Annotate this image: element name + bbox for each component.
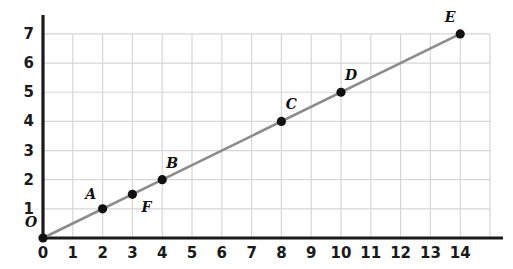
- x-tick-label-13: 13: [420, 246, 441, 261]
- x-tick-label-7: 7: [246, 246, 256, 261]
- data-point-marker-o: [38, 233, 47, 242]
- point-label-a: A: [85, 187, 96, 201]
- x-tick-label-12: 12: [390, 246, 411, 261]
- point-label-d: D: [345, 68, 357, 82]
- x-tick-label-9: 9: [306, 246, 316, 261]
- point-label-e: E: [445, 10, 456, 24]
- y-tick-label-4: 4: [24, 114, 34, 129]
- x-tick-label-6: 6: [217, 246, 227, 261]
- data-point-marker-a: [98, 204, 107, 213]
- grid-lines: [43, 34, 490, 238]
- point-label-c: C: [286, 97, 297, 111]
- x-tick-label-11: 11: [360, 246, 381, 261]
- x-tick-label-2: 2: [97, 246, 107, 261]
- x-tick-label-3: 3: [127, 246, 137, 261]
- point-label-f: F: [141, 200, 151, 214]
- y-tick-label-7: 7: [24, 26, 34, 41]
- x-tick-label-10: 10: [331, 246, 352, 261]
- y-tick-label-3: 3: [24, 143, 34, 158]
- x-tick-label-4: 4: [157, 246, 167, 261]
- plot-area: [0, 0, 513, 269]
- y-tick-label-2: 2: [24, 172, 34, 187]
- data-point-marker-b: [158, 175, 167, 184]
- data-point-marker-f: [128, 190, 137, 199]
- x-tick-label-1: 1: [68, 246, 78, 261]
- x-tick-label-8: 8: [276, 246, 286, 261]
- line-chart: 01234567891011121314 1234567 OAFBCDE: [0, 0, 513, 269]
- y-tick-label-5: 5: [24, 85, 34, 100]
- point-label-o: O: [25, 215, 37, 229]
- x-tick-label-0: 0: [38, 246, 48, 261]
- x-tick-label-14: 14: [450, 246, 471, 261]
- y-tick-label-6: 6: [24, 56, 34, 71]
- data-point-marker-c: [277, 117, 286, 126]
- x-tick-label-5: 5: [187, 246, 197, 261]
- data-point-marker-d: [336, 88, 345, 97]
- point-label-b: B: [166, 156, 178, 170]
- data-point-marker-e: [456, 29, 465, 38]
